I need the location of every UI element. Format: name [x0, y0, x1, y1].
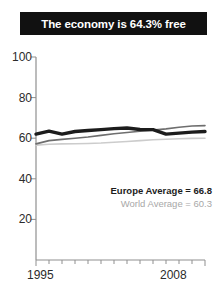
page-title: The economy is 64.3% free	[41, 18, 186, 30]
y-axis-labels: 100 80 60 40 20	[0, 36, 32, 305]
y-tick-label-60: 60	[2, 132, 32, 144]
economic-freedom-chart-card: The economy is 64.3% free	[0, 0, 216, 305]
y-tick-label-20: 20	[2, 213, 32, 225]
chart-title-banner: The economy is 64.3% free	[20, 12, 207, 35]
y-tick-label-40: 40	[2, 173, 32, 185]
x-tick-marks	[36, 260, 205, 266]
chart-legend: Europe Average = 66.8 World Average = 60…	[96, 184, 212, 210]
legend-entry-europe-average: Europe Average = 66.8	[96, 184, 212, 197]
legend-entry-world-average: World Average = 60.3	[96, 197, 212, 210]
y-tick-label-100: 100	[2, 51, 32, 63]
x-tick-label-end: 2008	[160, 268, 187, 282]
plot-area: 100 80 60 40 20 1995 2008 Europe Average…	[0, 36, 216, 305]
x-tick-label-start: 1995	[27, 268, 54, 282]
y-tick-label-80: 80	[2, 92, 32, 104]
chart-plot-svg	[0, 36, 216, 305]
